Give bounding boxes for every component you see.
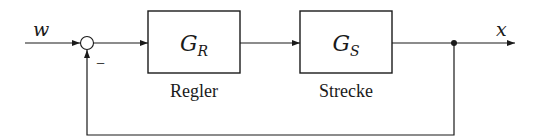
plant-caption: Strecke — [319, 81, 373, 101]
control-loop-diagram: w − GR Regler GS Strecke x — [0, 0, 540, 139]
summing-junction — [81, 37, 94, 50]
controller-caption: Regler — [170, 81, 218, 101]
feedback-minus-sign: − — [96, 55, 105, 72]
output-label-x: x — [496, 18, 507, 40]
feedback-path — [87, 43, 454, 135]
input-label-w: w — [33, 18, 49, 40]
